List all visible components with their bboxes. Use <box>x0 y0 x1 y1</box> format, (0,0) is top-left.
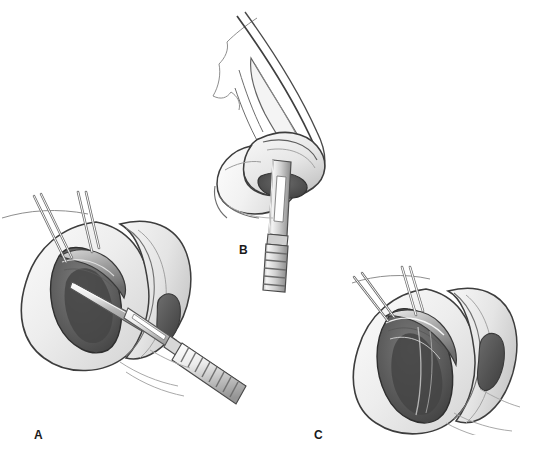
panel-b-svg <box>205 0 375 300</box>
panel-label-b: B <box>239 244 248 256</box>
panel-label-c: C <box>314 429 323 441</box>
panel-label-a: A <box>34 429 43 441</box>
panel-c-illustration <box>330 265 540 435</box>
panel-c-svg <box>330 265 540 435</box>
panel-b-illustration <box>205 0 375 300</box>
figure-root: A B C <box>0 0 540 468</box>
